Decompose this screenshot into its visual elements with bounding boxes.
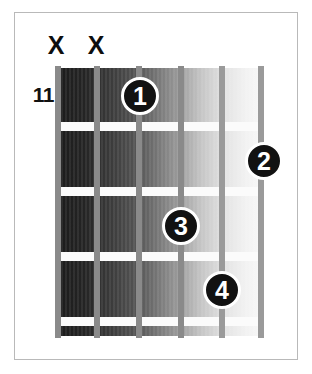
mute-marker-string-5: X (85, 32, 107, 58)
mute-marker-string-6: X (45, 32, 67, 58)
starting-fret-label: 11 (24, 84, 54, 106)
fret-line-2 (55, 187, 263, 196)
finger-dot-3: 3 (162, 207, 200, 245)
string-3 (178, 66, 184, 338)
string-6 (55, 66, 61, 338)
chord-diagram-card: 11 XX 1234 (0, 0, 312, 374)
finger-dot-1: 1 (121, 77, 159, 115)
finger-dot-2: 2 (245, 142, 283, 180)
fret-line-3 (55, 252, 263, 261)
fret-line-4 (55, 317, 263, 326)
fret-line-1 (55, 122, 263, 131)
finger-dot-4: 4 (203, 271, 241, 309)
string-5 (94, 66, 100, 338)
string-1 (258, 66, 264, 338)
